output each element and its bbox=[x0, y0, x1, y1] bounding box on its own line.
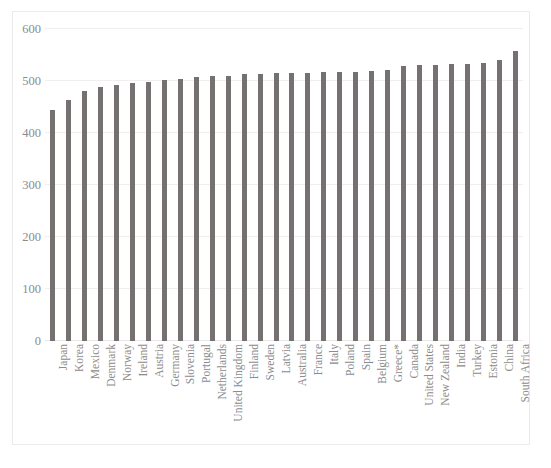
x-tick-label-text: Portugal bbox=[201, 344, 213, 383]
bar bbox=[433, 65, 438, 341]
y-tick-label-0: 0 bbox=[1, 335, 41, 348]
x-tick-label-text: India bbox=[456, 344, 468, 368]
x-tick-label-text: Mexico bbox=[90, 344, 102, 379]
x-tick-label: Denmark bbox=[106, 344, 118, 387]
x-tick-label: Spain bbox=[361, 344, 373, 370]
x-tick-label-text: Estonia bbox=[488, 344, 500, 379]
y-tick-label-100: 100 bbox=[1, 283, 41, 296]
x-axis-labels: JapanKoreaMexicoDenmarkNorwayIrelandAust… bbox=[45, 344, 523, 444]
x-tick-label-text: Belgium bbox=[377, 344, 389, 384]
x-tick-label: Sweden bbox=[265, 344, 277, 380]
bar bbox=[162, 80, 167, 341]
y-tick-label-600: 600 bbox=[1, 23, 41, 36]
x-tick-label-text: Spain bbox=[361, 344, 373, 370]
y-axis: 0100200300400500600 bbox=[0, 29, 41, 341]
bar bbox=[242, 74, 247, 341]
x-tick-label-text: France bbox=[313, 344, 325, 375]
y-tick-label-200: 200 bbox=[1, 231, 41, 244]
x-tick-label-text: Ireland bbox=[138, 344, 150, 377]
bar bbox=[114, 85, 119, 341]
x-tick-label: Latvia bbox=[281, 344, 293, 373]
x-tick-label: Australia bbox=[297, 344, 309, 386]
x-tick-label-text: Italy bbox=[329, 344, 341, 365]
x-tick-label: Netherlands bbox=[217, 344, 229, 400]
x-tick-label: Estonia bbox=[488, 344, 500, 379]
x-tick-label-text: Norway bbox=[122, 344, 134, 381]
x-tick-label-text: Australia bbox=[297, 344, 309, 386]
bar bbox=[321, 72, 326, 341]
bar bbox=[66, 100, 71, 341]
x-tick-label-text: Japan bbox=[58, 344, 70, 370]
bar bbox=[82, 91, 87, 341]
bar bbox=[401, 66, 406, 341]
x-tick-label: Mexico bbox=[90, 344, 102, 379]
bar bbox=[353, 72, 358, 341]
x-tick-label: United Kingdom bbox=[233, 344, 245, 422]
bar bbox=[369, 71, 374, 341]
x-tick-label: Ireland bbox=[138, 344, 150, 377]
bar bbox=[226, 76, 231, 341]
bar bbox=[210, 76, 215, 341]
x-tick-label: Belgium bbox=[377, 344, 389, 384]
bar bbox=[497, 60, 502, 341]
bar bbox=[465, 64, 470, 341]
bar bbox=[337, 72, 342, 341]
x-tick-label: Canada bbox=[409, 344, 421, 378]
x-tick-label-text: Latvia bbox=[281, 344, 293, 373]
bar-chart: 0100200300400500600 JapanKoreaMexicoDenm… bbox=[0, 0, 551, 468]
x-tick-label: France bbox=[313, 344, 325, 375]
x-tick-label-text: Slovenia bbox=[185, 344, 197, 384]
bar bbox=[130, 83, 135, 341]
x-tick-label-text: New Zealand bbox=[440, 344, 452, 406]
x-tick-label-text: Denmark bbox=[106, 344, 118, 387]
bar bbox=[417, 65, 422, 341]
x-tick-label-text: Poland bbox=[345, 344, 357, 376]
bar bbox=[258, 74, 263, 341]
bar bbox=[449, 64, 454, 341]
bar bbox=[513, 51, 518, 341]
bar bbox=[194, 77, 199, 341]
x-tick-label: Greece* bbox=[393, 344, 405, 382]
bar bbox=[98, 87, 103, 341]
x-tick-label: China bbox=[504, 344, 516, 371]
bar bbox=[289, 73, 294, 341]
bar bbox=[481, 63, 486, 341]
x-tick-label-text: Austria bbox=[154, 344, 166, 378]
bars-layer bbox=[45, 29, 523, 341]
x-tick-label: Japan bbox=[58, 344, 70, 370]
x-tick-label: Slovenia bbox=[185, 344, 197, 384]
x-tick-label: Norway bbox=[122, 344, 134, 381]
x-tick-label-text: Canada bbox=[409, 344, 421, 378]
x-tick-label: Portugal bbox=[201, 344, 213, 383]
x-tick-label: New Zealand bbox=[440, 344, 452, 406]
bar bbox=[274, 73, 279, 341]
x-tick-label-text: Netherlands bbox=[217, 344, 229, 400]
x-tick-label: Italy bbox=[329, 344, 341, 365]
x-tick-label-text: Sweden bbox=[265, 344, 277, 380]
x-tick-label: Germany bbox=[170, 344, 182, 387]
x-tick-label-text: Germany bbox=[170, 344, 182, 387]
x-tick-label: Finland bbox=[249, 344, 261, 379]
x-tick-label-text: Greece* bbox=[393, 344, 405, 382]
bar bbox=[385, 70, 390, 341]
x-tick-label-text: South Africa bbox=[520, 344, 532, 402]
y-tick-label-300: 300 bbox=[1, 179, 41, 192]
x-tick-label: United States bbox=[424, 344, 436, 406]
y-tick-label-400: 400 bbox=[1, 127, 41, 140]
y-tick-label-500: 500 bbox=[1, 75, 41, 88]
x-tick-label: South Africa bbox=[520, 344, 532, 402]
x-tick-label-text: United Kingdom bbox=[233, 344, 245, 422]
x-tick-label: Turkey bbox=[472, 344, 484, 377]
x-tick-label: Austria bbox=[154, 344, 166, 378]
x-tick-label-text: Finland bbox=[249, 344, 261, 379]
x-tick-label: India bbox=[456, 344, 468, 368]
x-tick-label-text: Korea bbox=[74, 344, 86, 372]
x-tick-label: Poland bbox=[345, 344, 357, 376]
x-tick-label: Korea bbox=[74, 344, 86, 372]
x-tick-label-text: China bbox=[504, 344, 516, 371]
x-tick-label-text: Turkey bbox=[472, 344, 484, 377]
x-tick-label-text: United States bbox=[424, 344, 436, 406]
bar bbox=[50, 110, 55, 341]
bar bbox=[146, 82, 151, 341]
bar bbox=[305, 73, 310, 341]
